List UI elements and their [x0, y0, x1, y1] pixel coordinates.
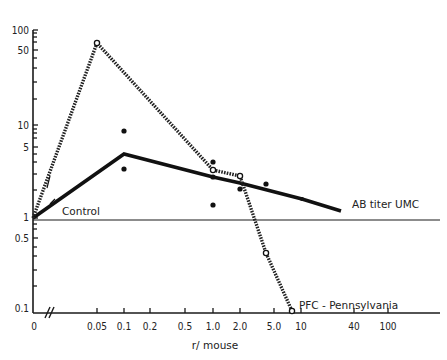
- ab-titer-marker: [300, 197, 304, 201]
- x-tick-2.0: 2.0: [233, 321, 248, 332]
- control-label: Control: [62, 205, 100, 217]
- ab-titer-label: AB titer UMC: [352, 198, 419, 210]
- x-tick-10: 10: [295, 321, 307, 332]
- y-tick-100: 100: [12, 25, 29, 36]
- x-tick-0.2: 0.2: [143, 321, 157, 332]
- x-tick-0.5: 0.5: [178, 321, 192, 332]
- y-tick-0.5: 0.5: [15, 233, 29, 244]
- x-tick-1.0: 1.0: [206, 321, 221, 332]
- y-tick-5: 5: [23, 142, 29, 153]
- y-tick-10: 10: [18, 120, 30, 131]
- pfc-line: [33, 43, 292, 311]
- x-tick-0.05: 0.05: [87, 321, 107, 332]
- x-tick-5.0: 5.0: [267, 321, 282, 332]
- y-tick-1: 1: [23, 212, 29, 223]
- x-tick-labels: 0 0.05 0.1 0.2 0.5 1.0 2.0 5.0 10 40 100: [31, 321, 397, 332]
- y-tick-0.1: 0.1: [15, 303, 29, 314]
- x-axis-label: r/ mouse: [192, 339, 238, 351]
- x-tick-40: 40: [348, 321, 360, 332]
- x-tick-0.1: 0.1: [117, 321, 131, 332]
- chart: 100 50 10 5 1 0.5 0.1 0 0.05 0.1 0.2 0.5…: [0, 0, 447, 360]
- pfc-markers: [94, 40, 294, 313]
- x-tick-0: 0: [31, 321, 37, 332]
- y-tick-50: 50: [18, 45, 30, 56]
- pfc-label: PFC - Pennsylvania: [299, 299, 398, 311]
- y-tick-labels: 100 50 10 5 1 0.5 0.1: [12, 25, 29, 314]
- x-tick-100: 100: [379, 321, 396, 332]
